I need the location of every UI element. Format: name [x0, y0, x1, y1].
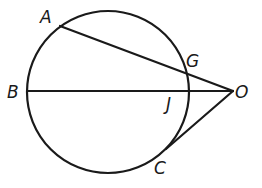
tangent-c-o — [166, 91, 233, 149]
label-o: O — [235, 82, 248, 102]
label-c: C — [154, 158, 166, 178]
label-g: G — [186, 51, 199, 71]
geometry-diagram: A B G J O C — [0, 0, 262, 188]
secant-a-o — [60, 26, 233, 91]
label-b: B — [7, 82, 19, 102]
label-j: J — [163, 94, 171, 114]
label-a: A — [39, 7, 52, 27]
